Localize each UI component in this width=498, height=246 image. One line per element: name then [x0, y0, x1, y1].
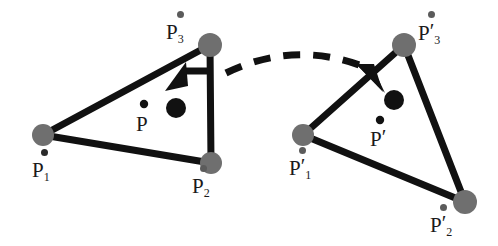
label-dot-p2-prime [440, 204, 447, 211]
label-p1-base: P [32, 158, 44, 182]
label-p2-prime-base: P [430, 213, 442, 237]
point-p-prime-dot [376, 116, 384, 124]
figure-canvas: P3 P P1 P2 P′3 P′ P′1 P′2 [0, 0, 498, 246]
label-dot-p1-prime [299, 147, 306, 154]
label-p1: P1 [32, 160, 50, 181]
target-triangle-shape [303, 45, 465, 202]
label-dot-p1 [41, 149, 48, 156]
label-dot-p3-prime [428, 11, 435, 18]
label-p3-prime-sub: 3 [434, 33, 440, 47]
label-p2: P2 [192, 176, 210, 197]
label-p-prime-mark: ′ [382, 125, 387, 149]
label-p-prime-base: P [370, 127, 382, 151]
label-p2-prime-sub: 2 [446, 225, 452, 239]
label-p1-sub: 1 [44, 170, 50, 184]
correspondence-arc [226, 55, 372, 73]
label-p3-prime: P′3 [418, 23, 440, 44]
vertex-p1 [32, 124, 54, 146]
label-dot-p3 [177, 11, 184, 18]
label-p3-prime-base: P [418, 21, 430, 45]
label-p3-sub: 3 [178, 32, 184, 46]
point-p-dot [140, 100, 148, 108]
point-p-prime-displaced [384, 90, 404, 110]
vertex-p3-prime [392, 33, 416, 57]
label-p3: P3 [166, 22, 184, 43]
target-triangle-group [292, 33, 477, 214]
source-triangle-group [32, 33, 222, 174]
point-p-displaced [166, 98, 186, 118]
label-p1-prime-sub: 1 [305, 168, 311, 182]
label-p3-base: P [166, 20, 178, 44]
vertex-p3 [198, 33, 222, 57]
label-p1-prime: P′1 [289, 158, 311, 179]
label-p2-base: P [192, 174, 204, 198]
label-p1-prime-base: P [289, 156, 301, 180]
label-dot-p2 [200, 165, 207, 172]
vertex-p1-prime [292, 124, 314, 146]
label-p2-prime: P′2 [430, 215, 452, 236]
label-p-base: P [136, 112, 148, 136]
label-p2-sub: 2 [204, 186, 210, 200]
label-p: P [136, 114, 148, 135]
label-p-prime: P′ [370, 129, 386, 150]
vertex-p2-prime [453, 190, 477, 214]
